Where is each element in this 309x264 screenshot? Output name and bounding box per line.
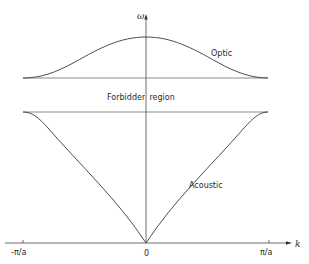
omega-axis-arrow-icon — [144, 14, 147, 20]
label-gap — [145, 92, 148, 102]
tick-label-neg: -π/a — [11, 248, 26, 257]
tick-label-pos: π/a — [260, 248, 273, 257]
k-axis-label: k — [295, 239, 300, 249]
dispersion-chart: ω k -π/a 0 π/a Optic Forbidden region Ac… — [0, 0, 309, 264]
acoustic-label: Acoustic — [189, 181, 223, 190]
acoustic-branch-curve — [23, 112, 268, 243]
omega-axis-label: ω — [137, 11, 145, 21]
optic-label: Optic — [211, 49, 232, 58]
tick-label-zero: 0 — [144, 249, 149, 258]
k-axis-arrow-icon — [286, 241, 292, 245]
forbidden-region-label: Forbidden region — [107, 93, 175, 102]
